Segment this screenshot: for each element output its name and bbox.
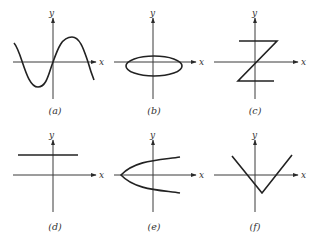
panel-caption: (c) xyxy=(249,105,262,116)
y-axis-label: y xyxy=(251,130,258,140)
v-shape-curve xyxy=(232,155,292,193)
y-axis-label: y xyxy=(48,8,55,18)
panel-c: x y (c) xyxy=(214,8,306,116)
z-curve xyxy=(238,41,277,81)
panel-b: x y (b) xyxy=(114,8,204,116)
x-axis-label: x xyxy=(199,170,204,180)
x-axis-label: x xyxy=(301,170,306,180)
y-axis-label: y xyxy=(48,130,55,140)
panel-f: x y (f) xyxy=(214,130,306,232)
figure-graphs: x y (a) x y (b) x y (c) x y (d) x y (e) xyxy=(0,0,315,239)
y-axis-label: y xyxy=(149,8,156,18)
y-axis-label: y xyxy=(251,8,258,18)
panel-e: x y (e) xyxy=(114,130,204,232)
x-axis-label: x xyxy=(301,57,306,67)
panel-a: x y (a) xyxy=(13,8,104,116)
x-axis-label: x xyxy=(99,57,104,67)
panel-caption: (d) xyxy=(48,221,62,232)
x-axis-label: x xyxy=(99,170,104,180)
panel-caption: (b) xyxy=(147,105,161,116)
panel-caption: (e) xyxy=(147,221,160,232)
y-axis-label: y xyxy=(149,130,156,140)
panel-caption: (a) xyxy=(48,105,61,116)
ellipse-curve xyxy=(126,56,182,76)
panel-caption: (f) xyxy=(250,221,261,232)
x-axis-label: x xyxy=(199,57,204,67)
panel-d: x y (d) xyxy=(13,130,104,232)
